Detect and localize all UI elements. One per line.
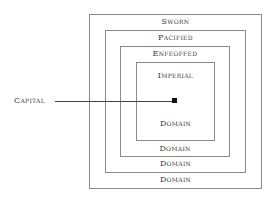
sworn-domain-label: Domain — [89, 175, 262, 184]
enfeoffed-label: Enfeoffed — [120, 49, 230, 58]
capital-label: Capital — [14, 96, 45, 105]
capital-pointer-line — [55, 101, 175, 102]
enfeoffed-domain-label: Domain — [120, 144, 230, 153]
capital-marker — [172, 98, 177, 103]
pacified-domain-label: Domain — [105, 159, 246, 168]
imperial-domain-label: Domain — [136, 119, 215, 128]
sworn-label: Sworn — [89, 17, 262, 26]
pacified-label: Pacified — [105, 33, 246, 42]
imperial-label: Imperial — [136, 71, 215, 80]
